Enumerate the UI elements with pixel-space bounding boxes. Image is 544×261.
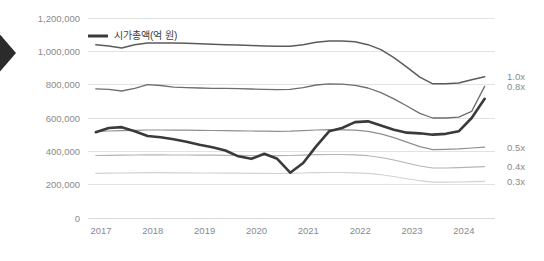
y-axis-tick-200000: 200,000 [46,179,80,190]
x-axis-tick-2018: 2018 [142,225,163,236]
y-axis-tick-800000: 800,000 [46,79,80,90]
y-axis-tick-1000000: 1,000,000 [38,46,80,57]
legend-label-market-cap: 시가총액(억 원) [114,30,177,41]
chart-legend: 시가총액(억 원) [88,30,177,41]
series-line-1.0x-band [96,41,485,84]
right-axis-multiplier-labels: 1.0x0.8x0.5x0.4x0.3x [507,71,525,187]
y-axis-tick-labels: 0200,000400,000600,000800,0001,000,0001,… [38,13,80,224]
x-axis-tick-2021: 2021 [298,225,319,236]
series-line-0.8x-band [96,84,485,118]
x-axis-tick-2019: 2019 [194,225,215,236]
x-axis-tick-2024: 2024 [453,225,474,236]
y-axis-tick-600000: 600,000 [46,113,80,124]
chart-canvas: 0200,000400,000600,000800,0001,000,0001,… [0,0,544,261]
right-label-0.5x: 0.5x [507,142,525,153]
market-cap-chart: 0200,000400,000600,000800,0001,000,0001,… [0,0,544,261]
x-axis-tick-2023: 2023 [401,225,422,236]
series-layer [96,41,485,182]
right-label-0.4x: 0.4x [507,161,525,172]
series-line-시가총액(억 원) [96,99,485,173]
left-chevron-arrow [0,30,16,76]
y-axis-tick-0: 0 [75,213,80,224]
y-axis-tick-1200000: 1,200,000 [38,13,80,24]
x-axis-tick-2022: 2022 [350,225,371,236]
x-axis-tick-2020: 2020 [246,225,267,236]
series-line-0.5x-band [96,130,485,150]
y-axis-tick-400000: 400,000 [46,146,80,157]
x-axis-tick-2017: 2017 [90,225,111,236]
series-line-0.4x-band [96,155,485,169]
right-label-0.3x: 0.3x [507,176,525,187]
right-label-0.8x: 0.8x [507,81,525,92]
x-axis-tick-labels: 20172018201920202021202220232024 [90,225,474,236]
